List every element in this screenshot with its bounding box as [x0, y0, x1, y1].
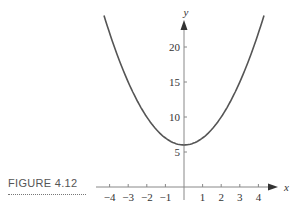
y-axis-arrow-icon [181, 20, 188, 30]
y-axis-label: y [183, 6, 189, 18]
x-axis-arrow-icon [268, 184, 278, 191]
figure-caption: FIGURE 4.12 [8, 177, 77, 189]
y-tick-label: 5 [175, 146, 181, 158]
y-tick-label: 15 [169, 76, 181, 88]
caption-underline [8, 194, 86, 195]
x-tick-label: −1 [160, 191, 172, 203]
y-tick-label: 20 [169, 41, 181, 53]
y-tick-label: 10 [169, 111, 181, 123]
x-tick-label: 4 [256, 191, 262, 203]
x-tick-label: 3 [237, 191, 243, 203]
x-tick-label: −2 [141, 191, 153, 203]
x-axis-label: x [283, 181, 289, 193]
x-tick-label: 1 [200, 191, 206, 203]
x-tick-label: −4 [104, 191, 116, 203]
x-tick-label: −3 [122, 191, 134, 203]
x-tick-label: 2 [218, 191, 224, 203]
